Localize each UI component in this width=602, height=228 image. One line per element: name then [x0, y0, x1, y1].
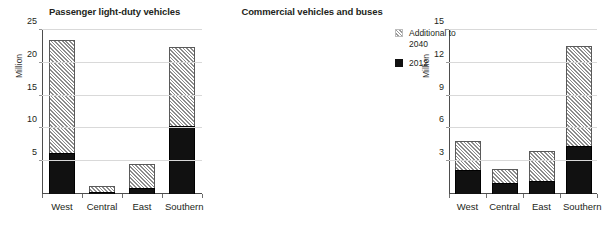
gridline: [42, 29, 202, 30]
plot-area-passenger: WestCentralEastSouthern 510152025: [42, 30, 202, 194]
chart-legend: Additional to 20402012: [395, 28, 470, 78]
chart-title-passenger: Passenger light-duty vehicles: [8, 6, 221, 17]
y-axis-label-passenger: Million: [14, 54, 24, 78]
y-axis-tick-label: 20: [27, 49, 37, 58]
y-axis-tick-label: 10: [27, 115, 37, 124]
gridline: [449, 127, 597, 128]
gridline: [449, 29, 597, 30]
bar-segment-2012: [129, 188, 155, 194]
y-axis-tick-label: 15: [434, 17, 444, 26]
bar-series-passenger: [42, 30, 202, 194]
gridline: [42, 95, 202, 96]
x-axis-tick-mark: [122, 194, 123, 198]
gridline: [449, 160, 597, 161]
chart-title-commercial: Commercial vehicles and buses: [219, 6, 405, 17]
x-axis-tick-mark: [42, 194, 43, 198]
bar-group-east[interactable]: [125, 30, 159, 194]
x-axis-label-west: West: [452, 201, 483, 212]
chart-panel-commercial: Commercial vehicles and buses Million We…: [205, 0, 415, 228]
gridline: [449, 62, 597, 63]
bar-segment-additional-to-2040: [169, 47, 195, 126]
legend-label: Additional to 2040: [409, 28, 470, 49]
y-axis-tick-mark: [39, 29, 42, 30]
bar-segment-2012: [89, 192, 115, 194]
hatched-swatch-icon: [395, 29, 403, 37]
x-axis-label-southern: Southern: [165, 201, 199, 212]
legend-item-additional-to-2040[interactable]: Additional to 2040: [395, 28, 470, 49]
bar-segment-2012: [492, 183, 518, 194]
x-axis-labels-passenger: WestCentralEastSouthern: [42, 201, 202, 212]
legend-label: 2012: [409, 58, 428, 69]
stacked-bar: [129, 164, 155, 194]
y-axis-tick-label: 9: [439, 82, 444, 91]
x-axis-tick-mark: [523, 194, 524, 198]
bar-group-southern[interactable]: [165, 30, 199, 194]
bar-segment-additional-to-2040: [49, 40, 75, 153]
y-axis-tick-mark: [446, 160, 449, 161]
y-axis-tick-mark: [39, 127, 42, 128]
y-axis-tick-mark: [39, 160, 42, 161]
x-axis-label-east: East: [125, 201, 159, 212]
stacked-bar: [169, 47, 195, 194]
bar-group-central[interactable]: [489, 30, 520, 194]
stacked-bar: [492, 169, 518, 194]
gridline: [42, 160, 202, 161]
stacked-bar: [566, 46, 592, 194]
bar-group-central[interactable]: [85, 30, 119, 194]
y-axis-tick-label: 25: [27, 17, 37, 26]
bar-segment-2012: [49, 153, 75, 194]
bar-segment-additional-to-2040: [529, 151, 555, 181]
x-axis-tick-mark: [486, 194, 487, 198]
gridline: [449, 95, 597, 96]
x-axis-tick-mark: [162, 194, 163, 198]
y-axis-tick-mark: [39, 95, 42, 96]
y-axis-tick-mark: [446, 95, 449, 96]
bar-segment-additional-to-2040: [129, 164, 155, 188]
x-axis-tick-mark: [82, 194, 83, 198]
stacked-bar: [529, 151, 555, 194]
x-axis-label-central: Central: [85, 201, 119, 212]
x-axis-label-east: East: [526, 201, 557, 212]
stacked-bar: [49, 40, 75, 194]
x-axis-label-central: Central: [489, 201, 520, 212]
x-axis-tick-mark: [560, 194, 561, 198]
legend-item-2012[interactable]: 2012: [395, 58, 470, 69]
y-axis-tick-label: 3: [439, 148, 444, 157]
bar-group-east[interactable]: [526, 30, 557, 194]
bar-group-southern[interactable]: [563, 30, 594, 194]
stacked-bar: [455, 141, 481, 194]
x-axis-labels-commercial: WestCentralEastSouthern: [449, 201, 597, 212]
gridline: [42, 62, 202, 63]
bar-segment-2012: [566, 146, 592, 194]
plot-area-commercial: WestCentralEastSouthern 3691215: [449, 30, 597, 194]
bar-segment-2012: [529, 181, 555, 194]
y-axis-tick-label: 6: [439, 115, 444, 124]
y-axis-tick-label: 5: [32, 148, 37, 157]
y-axis-tick-label: 15: [27, 82, 37, 91]
x-axis-tick-mark: [449, 194, 450, 198]
bar-series-commercial: [449, 30, 597, 194]
stacked-bar: [89, 186, 115, 194]
solid-swatch-icon: [395, 59, 403, 67]
y-axis-tick-mark: [446, 127, 449, 128]
bar-group-west[interactable]: [45, 30, 79, 194]
bar-segment-additional-to-2040: [455, 141, 481, 170]
chart-panel-passenger: Passenger light-duty vehicles Million We…: [0, 0, 225, 228]
bar-segment-2012: [455, 170, 481, 194]
bar-segment-additional-to-2040: [492, 169, 518, 183]
x-axis-tick-mark: [597, 194, 598, 198]
gridline: [42, 127, 202, 128]
y-axis-tick-mark: [39, 62, 42, 63]
x-axis-tick-mark: [202, 194, 203, 198]
x-axis-label-southern: Southern: [563, 201, 594, 212]
x-axis-label-west: West: [45, 201, 79, 212]
